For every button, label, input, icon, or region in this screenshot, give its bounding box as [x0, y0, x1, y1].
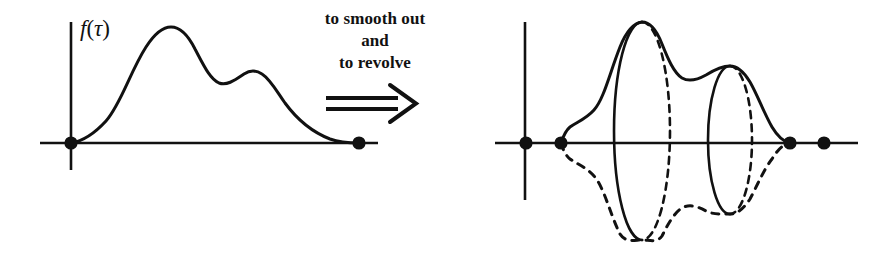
right-upper-profile-curve: [561, 22, 790, 143]
right-endpoint-dot: [352, 136, 365, 149]
caption-line-2: and: [290, 30, 460, 52]
implication-arrow-icon: [292, 82, 458, 128]
implication-arrow: [292, 82, 458, 128]
right-panel-surface-of-revolution: [470, 0, 870, 256]
profile-start-dot: [554, 136, 567, 149]
far-right-dot: [817, 136, 830, 149]
arrow-head: [390, 85, 416, 122]
caption-line-1: to smooth out: [290, 8, 460, 30]
profile-end-dot: [783, 136, 796, 149]
function-label-open-paren: (: [86, 16, 94, 41]
left-endpoint-dot: [64, 136, 77, 149]
function-label-close-paren: ): [102, 16, 110, 41]
function-label: f(τ): [80, 16, 110, 42]
right-lower-mirror-curve: [561, 143, 790, 241]
figure-root: f(τ) to smooth out and to revolve: [0, 0, 870, 256]
right-plot-svg: [470, 0, 870, 256]
transformation-caption: to smooth out and to revolve: [290, 8, 460, 73]
cross-section-ellipse-minor-near: [708, 66, 730, 214]
caption-line-3: to revolve: [290, 52, 460, 74]
cross-section-ellipse-minor-far: [730, 66, 752, 214]
origin-dot: [519, 136, 532, 149]
